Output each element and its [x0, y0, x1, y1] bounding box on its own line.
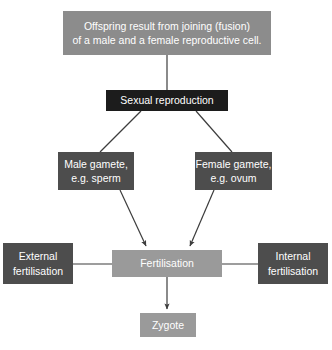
statement-line-2: of a male and a female reproductive cell… — [72, 33, 261, 47]
female-gamete-box: Female gamete, e.g. ovum — [195, 152, 272, 190]
external-fertilisation-line-1: External — [13, 249, 63, 263]
edge-sexual-to-male — [100, 111, 141, 152]
edge-female-to-fertilisation — [190, 190, 214, 246]
male-gamete-line-2: e.g. sperm — [64, 171, 128, 185]
zygote-box: Zygote — [140, 313, 196, 337]
female-gamete-line-2: e.g. ovum — [196, 171, 272, 185]
edge-male-to-fertilisation — [120, 190, 146, 246]
sexual-reproduction-label: Sexual reproduction — [120, 93, 213, 107]
fertilisation-box: Fertilisation — [112, 250, 222, 277]
male-gamete-box: Male gamete, e.g. sperm — [58, 152, 134, 190]
diagram-canvas: Offspring result from joining (fusion) o… — [0, 0, 332, 350]
external-fertilisation-box: External fertilisation — [3, 243, 73, 284]
external-fertilisation-line-2: fertilisation — [13, 264, 63, 278]
sexual-reproduction-box: Sexual reproduction — [106, 90, 228, 111]
zygote-label: Zygote — [152, 318, 184, 332]
female-gamete-line-1: Female gamete, — [196, 157, 272, 171]
statement-line-1: Offspring result from joining (fusion) — [72, 19, 261, 33]
internal-fertilisation-line-1: Internal — [268, 249, 318, 263]
internal-fertilisation-line-2: fertilisation — [268, 264, 318, 278]
male-gamete-line-1: Male gamete, — [64, 157, 128, 171]
internal-fertilisation-box: Internal fertilisation — [258, 243, 328, 284]
statement-box: Offspring result from joining (fusion) o… — [63, 11, 271, 55]
fertilisation-label: Fertilisation — [140, 256, 194, 270]
edge-sexual-to-female — [196, 111, 232, 152]
